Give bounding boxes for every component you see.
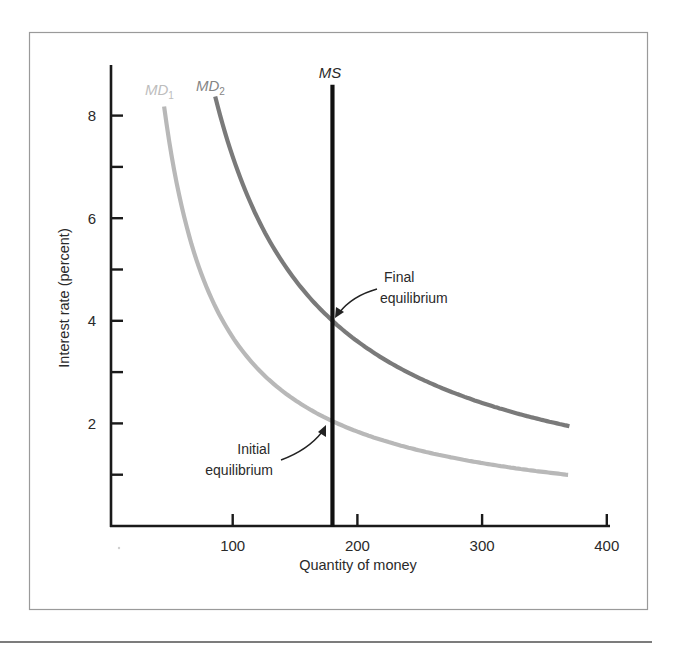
initial-equilibrium-line1: Initial [237,441,270,457]
y-axis-ticks: 2468 [88,107,123,475]
y-tick-label: 4 [88,312,96,329]
x-tick-label: 200 [345,537,370,554]
final-equilibrium-line2: equilibrium [380,290,448,306]
x-tick-label: 300 [470,537,495,554]
y-tick-label: 2 [88,415,96,432]
x-axis-title: Quantity of money [299,557,417,573]
y-tick-label: 8 [88,107,96,124]
money-market-chart: 2468 100200300400 Interest rate (percent… [0,0,680,648]
y-axis-title: Interest rate (percent) [56,228,72,367]
final-equilibrium-annotation: Final equilibrium [335,269,448,318]
scan-speck [118,547,120,549]
final-equilibrium-line1: Final [384,269,414,285]
initial-equilibrium-arrow [281,432,322,460]
final-equilibrium-arrow [339,289,377,313]
md1-curve [164,107,568,475]
initial-equilibrium-line2: equilibrium [205,462,273,478]
md2-label: MD2 [196,77,225,97]
initial-equilibrium-annotation: Initial equilibrium [205,425,326,478]
ms-label: MS [319,64,342,81]
x-tick-label: 100 [220,537,245,554]
md1-label: MD1 [145,81,174,101]
y-tick-label: 6 [88,210,96,227]
x-tick-label: 400 [594,537,619,554]
curves [164,85,569,527]
x-axis-ticks: 100200300400 [220,514,619,554]
